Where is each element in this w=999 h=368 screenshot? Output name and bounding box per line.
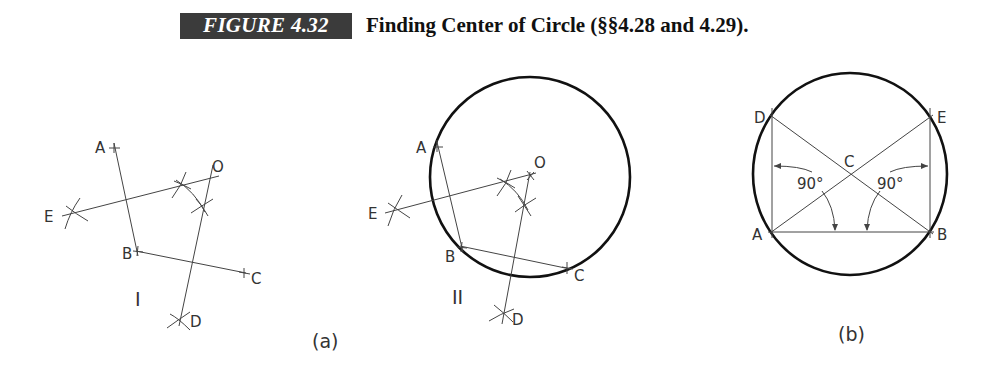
- arrowhead-icon: [832, 224, 838, 231]
- label-c: C: [251, 270, 261, 288]
- label-e: E: [44, 208, 53, 226]
- point-e-arcs: [388, 195, 410, 226]
- label-o: O: [212, 158, 224, 176]
- figure-b: D E A B C 90° 90°: [752, 73, 947, 275]
- chord-bc: [460, 246, 570, 269]
- arrowhead-icon: [864, 224, 870, 231]
- label-d: D: [512, 311, 524, 329]
- point-a-mark: [109, 143, 120, 153]
- point-e-arcs: [65, 198, 88, 229]
- label-e: E: [368, 205, 377, 223]
- label-b: B: [445, 248, 455, 266]
- label-c: C: [844, 153, 854, 171]
- figure-a-step-2: A B C D E O II: [368, 77, 630, 329]
- intersection-arcs-upper: [172, 172, 191, 198]
- angle-label-left: 90°: [797, 175, 824, 193]
- label-a: A: [752, 226, 763, 244]
- angle-label-right: 90°: [877, 175, 904, 193]
- label-b: B: [122, 245, 132, 263]
- figure-a-sublabel: (a): [312, 330, 338, 352]
- bisector-eo: [385, 173, 536, 213]
- point-c-mark: [239, 268, 250, 278]
- point-d-arcs: [167, 312, 190, 330]
- arrowhead-icon: [774, 163, 781, 169]
- diagram-canvas: A B C D E O I A B C D E O II (a): [0, 0, 999, 368]
- step-roman-numeral: I: [135, 288, 141, 310]
- label-a: A: [95, 139, 106, 157]
- bisector-do: [502, 172, 530, 324]
- label-b: B: [937, 226, 947, 244]
- arrowhead-icon: [921, 163, 928, 169]
- label-c: C: [574, 267, 584, 285]
- label-o: O: [534, 154, 546, 172]
- step-roman-numeral: II: [452, 286, 463, 308]
- label-a: A: [416, 139, 427, 157]
- label-d: D: [754, 109, 766, 127]
- figure-a-step-1: A B C D E O I: [44, 139, 261, 331]
- label-d: D: [190, 313, 202, 331]
- figure-b-sublabel: (b): [838, 323, 865, 345]
- point-d-arcs: [489, 305, 514, 322]
- bisector-do: [179, 165, 213, 326]
- label-e: E: [937, 109, 946, 127]
